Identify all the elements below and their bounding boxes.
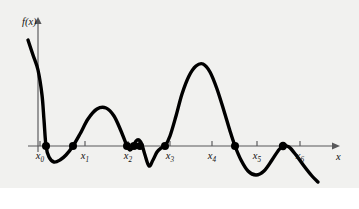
tick-label-x1: x1 [80, 150, 89, 164]
x-axis-arrowhead [332, 142, 340, 149]
root-marker-x2 [123, 142, 131, 150]
root-marker-x6 [279, 142, 287, 150]
x-axis-label: x [335, 151, 341, 162]
x-axis-tick-labels: x0x1x2x3x4x5x6 [35, 150, 305, 164]
y-axis-label: f(x) [22, 16, 37, 28]
tick-label-x2: x2 [123, 150, 133, 164]
tick-label-x5: x5 [252, 150, 262, 164]
figure-plot-of-function: x0x1x2x3x4x5x6 f(x) x [0, 0, 359, 209]
root-marker-x0 [42, 142, 50, 150]
tick-label-x4: x4 [207, 150, 217, 164]
root-marker-x1 [69, 142, 77, 150]
root-marker-x3 [161, 142, 169, 150]
root-marker-x5 [231, 142, 239, 150]
root-marker-x2c [136, 142, 144, 150]
tick-label-x0: x0 [35, 150, 45, 164]
tick-label-x3: x3 [165, 150, 175, 164]
x-axis-tick-marks [40, 141, 300, 146]
tick-label-x6: x6 [295, 150, 305, 164]
function-plot-canvas: x0x1x2x3x4x5x6 f(x) x [0, 0, 359, 209]
